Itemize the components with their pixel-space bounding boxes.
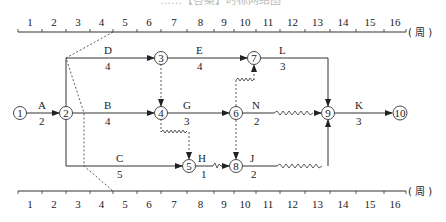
svg-text:7: 7 [251, 52, 257, 64]
svg-text:4: 4 [158, 107, 164, 119]
axis-tick-label: 3 [75, 16, 81, 28]
activity-A: A 2 [26, 99, 59, 127]
axis-tick-label: 7 [171, 198, 177, 210]
svg-text:C: C [116, 152, 123, 164]
axis-tick-label: 10 [240, 16, 252, 28]
svg-text:3: 3 [158, 52, 164, 64]
axis-tick-label: 10 [240, 198, 252, 210]
svg-text:2: 2 [254, 115, 260, 127]
node-9: 9 [322, 107, 335, 120]
axis-tick-label: 1 [27, 16, 33, 28]
svg-text:N: N [252, 99, 260, 111]
bottom-time-axis: 12345678910111213141516 ( 周 ) [18, 186, 432, 210]
axis-tick-label: 12 [287, 16, 298, 28]
node-8: 8 [230, 160, 243, 173]
svg-text:9: 9 [325, 107, 331, 119]
axis-tick-label: 6 [146, 198, 152, 210]
top-axis-unit: ( 周 ) [408, 27, 432, 38]
svg-text:5: 5 [186, 160, 192, 172]
node-10: 10 [393, 106, 407, 120]
svg-text:E: E [196, 44, 203, 56]
axis-tick-label: 14 [338, 16, 350, 28]
svg-text:1: 1 [17, 107, 23, 119]
svg-text:D: D [104, 44, 112, 56]
node-7: 7 [248, 52, 261, 65]
activity-C: C 5 [66, 152, 182, 180]
svg-text:L: L [279, 44, 286, 56]
axis-tick-label: 9 [221, 198, 227, 210]
svg-text:A: A [38, 99, 46, 111]
activity-E: E 4 [167, 44, 247, 72]
activity-G: G 3 [167, 99, 229, 127]
axis-tick-label: 16 [390, 198, 402, 210]
node-5: 5 [183, 160, 196, 173]
svg-text:6: 6 [233, 107, 239, 119]
bottom-axis-unit: ( 周 ) [408, 186, 432, 197]
svg-text:3: 3 [356, 115, 362, 127]
activity-L: L 3 [260, 44, 328, 106]
activity-K: K 3 [334, 99, 392, 127]
axis-tick-label: 5 [122, 16, 128, 28]
axis-tick-label: 15 [365, 198, 377, 210]
axis-tick-label: 3 [75, 198, 81, 210]
node-3: 3 [155, 52, 168, 65]
axis-tick-label: 11 [263, 16, 274, 28]
axis-tick-label: 9 [221, 16, 227, 28]
node-2: 2 [60, 107, 73, 120]
svg-text:4: 4 [105, 60, 111, 72]
axis-tick-label: 7 [171, 16, 177, 28]
axis-tick-label: 13 [312, 198, 324, 210]
svg-text:2: 2 [63, 107, 69, 119]
node-4: 4 [155, 107, 168, 120]
axis-tick-label: 2 [51, 16, 57, 28]
svg-text:1: 1 [201, 168, 207, 180]
svg-text:3: 3 [280, 60, 286, 72]
axis-tick-label: 11 [263, 198, 274, 210]
svg-text:10: 10 [395, 107, 407, 119]
activity-D: D 4 [66, 44, 154, 72]
time-scaled-network-diagram: ……【答案】时标网络图 12345678910111213141516 ( 周 … [0, 0, 446, 222]
svg-text:J: J [250, 152, 255, 164]
axis-tick-label: 6 [146, 16, 152, 28]
activity-H: H 1 [195, 152, 229, 180]
axis-tick-label: 16 [390, 16, 402, 28]
top-time-axis: 12345678910111213141516 ( 周 ) [18, 16, 432, 38]
axis-tick-label: 4 [99, 198, 105, 210]
svg-text:K: K [355, 99, 363, 111]
axis-tick-label: 15 [365, 16, 377, 28]
svg-text:G: G [183, 99, 191, 111]
axis-tick-label: 8 [198, 198, 204, 210]
axis-tick-label: 1 [27, 198, 33, 210]
axis-tick-label: 12 [287, 198, 298, 210]
axis-tick-label: 4 [99, 16, 105, 28]
axis-tick-label: 2 [51, 198, 57, 210]
axis-tick-label: 8 [198, 16, 204, 28]
svg-text:B: B [104, 99, 111, 111]
svg-text:2: 2 [251, 168, 257, 180]
svg-text:4: 4 [197, 60, 203, 72]
axis-tick-label: 5 [122, 198, 128, 210]
activity-N: N 2 [242, 99, 321, 127]
svg-text:8: 8 [233, 160, 239, 172]
activity-J: J 2 [242, 120, 328, 180]
title-fragment: ……【答案】时标网络图 [160, 0, 281, 7]
svg-text:3: 3 [184, 115, 190, 127]
svg-text:2: 2 [39, 115, 45, 127]
svg-text:H: H [198, 152, 206, 164]
axis-tick-label: 14 [338, 198, 350, 210]
svg-text:4: 4 [105, 115, 111, 127]
node-1: 1 [14, 107, 27, 120]
axis-tick-label: 13 [312, 16, 324, 28]
node-6: 6 [230, 107, 243, 120]
svg-text:5: 5 [117, 168, 123, 180]
